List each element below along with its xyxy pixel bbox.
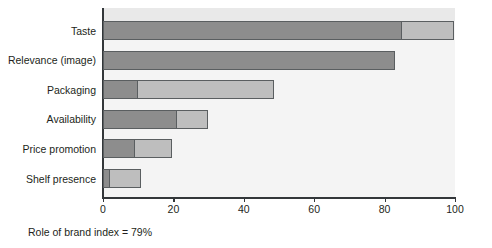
category-label: Price promotion (0, 143, 96, 155)
plot-top-band (103, 8, 455, 21)
bar-segment-primary (103, 80, 138, 99)
bar-segment-secondary (401, 21, 454, 40)
x-tick-label: 60 (308, 203, 320, 215)
category-label: Taste (0, 25, 96, 37)
bar-segment-secondary (109, 169, 141, 188)
x-tick-label: 80 (379, 203, 391, 215)
x-tick-label: 40 (238, 203, 250, 215)
bar-row (103, 169, 141, 188)
bar-segment-secondary (134, 139, 173, 158)
bar-segment-primary (103, 110, 177, 129)
category-label: Relevance (image) (0, 54, 96, 66)
category-label-column: TasteRelevance (image)PackagingAvailabil… (0, 0, 96, 198)
x-tick-mark (385, 197, 386, 202)
bar-row (103, 51, 395, 70)
chart-caption: Role of brand index = 79% (28, 226, 152, 238)
category-label: Packaging (0, 84, 96, 96)
bar-segment-secondary (176, 110, 208, 129)
bar-row (103, 139, 172, 158)
bar-row (103, 80, 274, 99)
bar-row (103, 110, 208, 129)
x-tick-label: 100 (446, 203, 464, 215)
chart-figure: TasteRelevance (image)PackagingAvailabil… (0, 0, 492, 248)
bar-segment-primary (103, 21, 402, 40)
x-tick-label: 20 (168, 203, 180, 215)
x-axis-line (102, 197, 456, 199)
x-tick-mark (173, 197, 174, 202)
bar-segment-primary (103, 139, 135, 158)
x-tick-mark (455, 197, 456, 202)
bar-segment-primary (103, 51, 395, 70)
bar-row (103, 21, 454, 40)
x-tick-mark (103, 197, 104, 202)
x-tick-label: 0 (100, 203, 106, 215)
x-tick-mark (244, 197, 245, 202)
bar-segment-secondary (137, 80, 274, 99)
x-tick-mark (314, 197, 315, 202)
category-label: Shelf presence (0, 173, 96, 185)
category-label: Availability (0, 113, 96, 125)
